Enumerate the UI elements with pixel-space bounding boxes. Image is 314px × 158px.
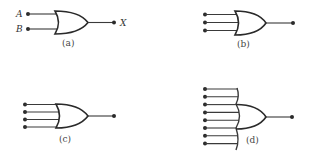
input-label-b: B: [15, 24, 23, 34]
gate-b: (b): [203, 11, 295, 49]
or-gate-symbol: [55, 11, 88, 34]
or-gate-symbol: [236, 105, 266, 130]
caption-d: (d): [246, 135, 259, 145]
caption-a: (a): [62, 38, 74, 48]
gate-d: (d): [203, 87, 294, 150]
or-gate-symbol: [56, 104, 88, 128]
output-terminal: [112, 114, 116, 118]
or-gate-symbol: [235, 11, 266, 35]
caption-b: (b): [237, 39, 250, 49]
or-gate-diagram: A B X (a) (b) (c): [0, 0, 314, 158]
output-label-x: X: [119, 18, 127, 28]
input-label-a: A: [15, 9, 23, 19]
gate-c: (c): [23, 103, 116, 145]
gate-a: A B X (a): [15, 9, 127, 48]
output-terminal: [290, 115, 294, 119]
caption-c: (c): [59, 134, 71, 144]
output-terminal: [291, 21, 295, 25]
output-terminal: [112, 21, 116, 25]
